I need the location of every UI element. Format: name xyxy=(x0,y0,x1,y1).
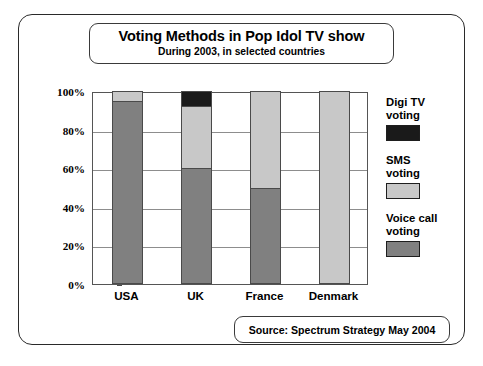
y-axis-tick-label: 60% xyxy=(39,163,85,175)
bar-france[interactable] xyxy=(250,91,281,284)
bar-segment[interactable] xyxy=(250,91,281,188)
x-axis-label-france: France xyxy=(230,289,299,302)
x-axis-labels: USAUKFranceDenmark xyxy=(92,289,368,309)
legend-item-2[interactable]: Voice call voting xyxy=(386,212,468,257)
legend-swatch-icon xyxy=(386,241,420,257)
bar-segment[interactable] xyxy=(112,101,143,284)
x-axis-label-uk: UK xyxy=(161,289,230,302)
legend-swatch-icon xyxy=(386,125,420,141)
legend-item-label: Voice call voting xyxy=(386,212,468,238)
source-text: Source: Spectrum Strategy May 2004 xyxy=(249,324,436,336)
y-axis-labels: 0%20%40%60%80%100% xyxy=(30,0,85,366)
legend-item-0[interactable]: Digi TV voting xyxy=(386,96,468,141)
bar-segment[interactable] xyxy=(181,168,212,284)
chart-plot-area xyxy=(92,92,368,285)
chart-legend: Digi TV votingSMS votingVoice call votin… xyxy=(386,96,468,270)
bar-usa[interactable] xyxy=(112,91,143,284)
x-axis-label-denmark: Denmark xyxy=(299,289,368,302)
chart-title-box: Voting Methods in Pop Idol TV show Durin… xyxy=(89,23,394,64)
x-axis-label-usa: USA xyxy=(92,289,161,302)
chart-subtitle: During 2003, in selected countries xyxy=(158,47,325,58)
legend-item-label: SMS voting xyxy=(386,154,468,180)
bar-segment[interactable] xyxy=(319,91,350,284)
bar-segment[interactable] xyxy=(181,106,212,168)
bar-segment[interactable] xyxy=(112,91,143,101)
page-title: Voting Methods in Pop Idol TV show xyxy=(118,29,364,44)
legend-item-1[interactable]: SMS voting xyxy=(386,154,468,199)
y-axis-tick-label: 20% xyxy=(39,240,85,252)
y-axis-tick-label: 100% xyxy=(39,86,85,98)
bar-segment[interactable] xyxy=(181,91,212,106)
y-axis-tick xyxy=(117,285,122,286)
bar-segment[interactable] xyxy=(250,188,281,285)
y-axis-tick-label: 0% xyxy=(39,279,85,291)
bar-denmark[interactable] xyxy=(319,91,350,284)
bar-uk[interactable] xyxy=(181,91,212,284)
legend-swatch-icon xyxy=(386,183,420,199)
y-axis-tick-label: 80% xyxy=(39,125,85,137)
y-axis-tick-label: 40% xyxy=(39,202,85,214)
legend-item-label: Digi TV voting xyxy=(386,96,468,122)
chart-source-box: Source: Spectrum Strategy May 2004 xyxy=(234,316,450,343)
